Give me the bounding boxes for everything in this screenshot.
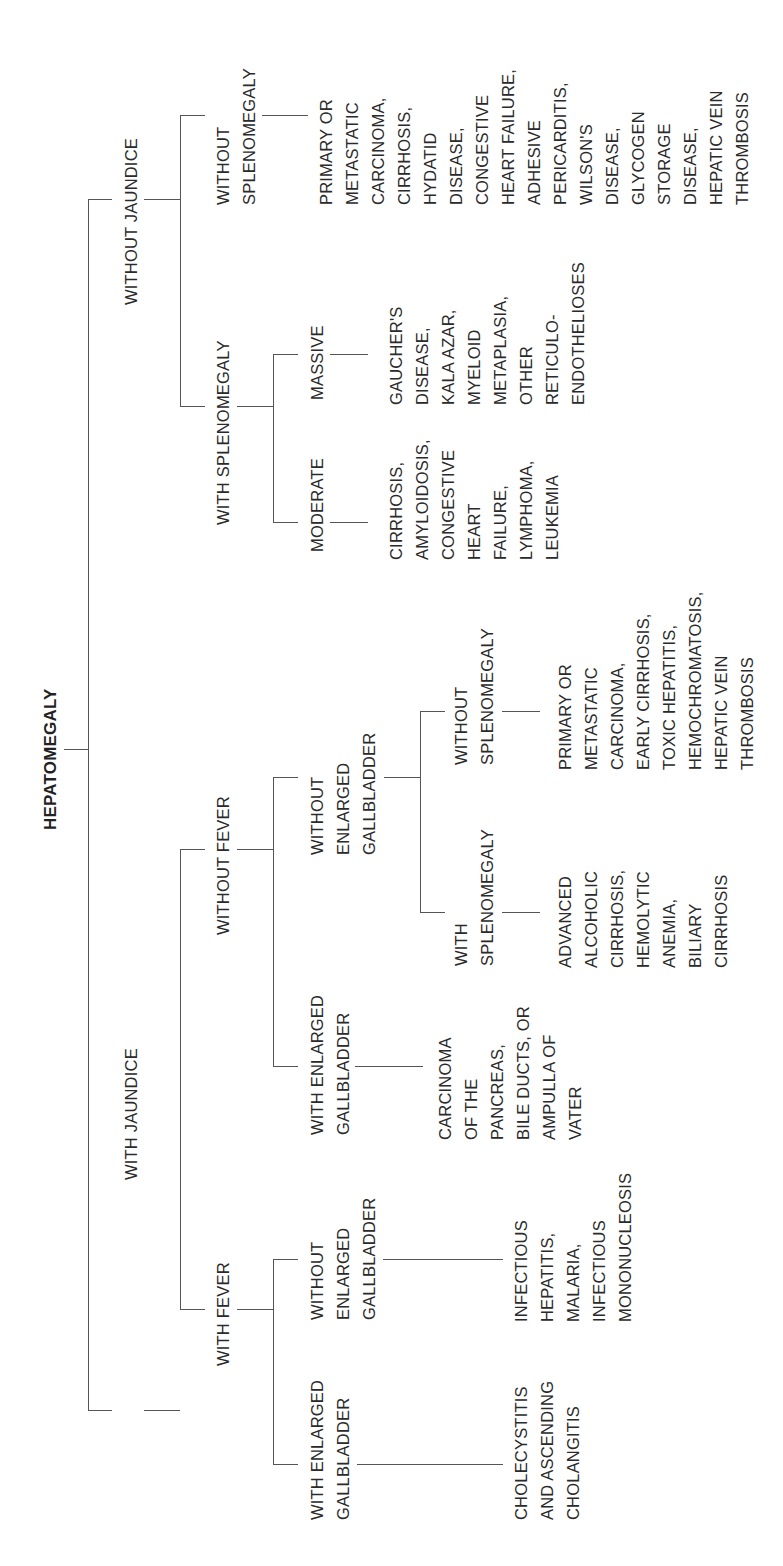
- connector: [330, 354, 368, 355]
- connector: [420, 711, 421, 912]
- causes-with-splenomegaly-j: ADVANCED ALCOHOLIC CIRRHOSIS, HEMOLYTIC …: [552, 870, 734, 968]
- causes-without-enlarged-gb-f: INFECTIOUS HEPATITIS, MALARIA, INFECTIOU…: [508, 1173, 638, 1322]
- node-without-fever: WITHOUT FEVER: [210, 796, 236, 935]
- node-with-enlarged-gb-nf: WITH ENLARGED GALLBLADDER: [304, 995, 356, 1135]
- connector: [180, 849, 205, 850]
- connector: [330, 522, 368, 523]
- connector: [273, 522, 298, 523]
- causes-with-enlarged-gb-nf: CARCINOMA OF THE PANCREAS, BILE DUCTS, O…: [432, 1006, 588, 1140]
- connector: [355, 1066, 423, 1067]
- node-without-enlarged-gb-nf: WITHOUT ENLARGED GALLBLADDER: [304, 733, 382, 855]
- connector: [180, 849, 181, 1309]
- connector: [237, 406, 273, 407]
- connector: [273, 354, 298, 355]
- node-with-splenomegaly-j: WITH SPLENOMEGALY: [448, 829, 500, 966]
- connector: [273, 354, 274, 522]
- connector: [64, 749, 88, 750]
- connector: [384, 777, 420, 778]
- connector: [273, 777, 274, 1066]
- connector: [262, 115, 308, 116]
- root-title: HEPATOMEGALY: [38, 688, 64, 830]
- connector: [420, 912, 445, 913]
- connector: [144, 1410, 180, 1411]
- connector: [383, 1259, 503, 1260]
- connector: [88, 199, 89, 1410]
- connector: [357, 1464, 503, 1465]
- node-with-jaundice: WITH JAUNDICE: [118, 1048, 144, 1180]
- node-without-enlarged-gb-f: WITHOUT ENLARGED GALLBLADDER: [304, 1198, 382, 1320]
- connector: [273, 1259, 298, 1260]
- connector: [273, 1066, 298, 1067]
- connector: [237, 1309, 273, 1310]
- node-without-jaundice: WITHOUT JAUNDICE: [118, 138, 144, 305]
- node-with-fever: WITH FEVER: [210, 1262, 236, 1366]
- node-with-enlarged-gb-f: WITH ENLARGED GALLBLADDER: [304, 1380, 356, 1520]
- connector: [502, 711, 540, 712]
- causes-massive: GAUCHER'S DISEASE, KALA AZAR, MYELOID ME…: [383, 262, 591, 405]
- connector: [180, 1309, 205, 1310]
- connector: [88, 199, 112, 200]
- causes-moderate: CIRRHOSIS, AMYLOIDOSIS, CONGESTIVE HEART…: [383, 439, 565, 560]
- hepatomegaly-decision-tree: HEPATOMEGALY WITHOUT JAUNDICE WITH JAUND…: [0, 0, 783, 1566]
- connector: [180, 115, 181, 406]
- connector: [420, 711, 445, 712]
- causes-without-splenomegaly-nj: PRIMARY OR METASTATIC CARCINOMA, CIRRHOS…: [313, 69, 755, 205]
- causes-with-enlarged-gb-f: CHOLECYSTITIS AND ASCENDING CHOLANGITIS: [508, 1381, 586, 1520]
- node-without-splenomegaly-nj: WITHOUT SPLENOMEGALY: [210, 68, 262, 205]
- connector: [180, 115, 205, 116]
- node-massive: MASSIVE: [304, 325, 330, 400]
- node-without-splenomegaly-j: WITHOUT SPLENOMEGALY: [448, 628, 500, 765]
- connector: [273, 1464, 298, 1465]
- connector: [88, 1410, 112, 1411]
- connector: [502, 912, 540, 913]
- node-moderate: MODERATE: [304, 458, 330, 552]
- causes-without-splenomegaly-j: PRIMARY OR METASTATIC CARCINOMA, EARLY C…: [552, 591, 760, 770]
- connector: [273, 777, 298, 778]
- connector: [237, 849, 273, 850]
- connector: [180, 406, 205, 407]
- node-with-splenomegaly-nj: WITH SPLENOMEGALY: [210, 340, 236, 525]
- connector: [144, 199, 180, 200]
- connector: [273, 1259, 274, 1464]
